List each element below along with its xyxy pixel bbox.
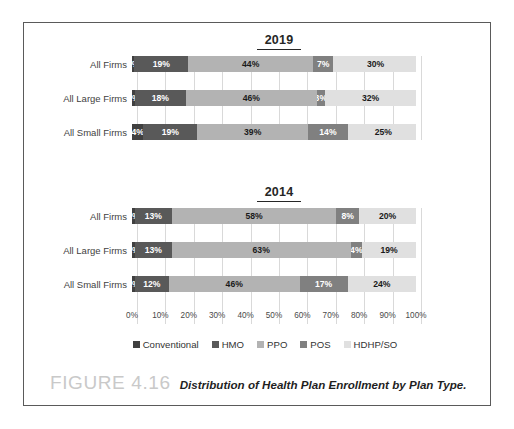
chart-panel-2019: 2019 All Firms 0%19%44%7%30% All Large F… [24, 33, 492, 183]
bar-segment-value: 58% [245, 211, 262, 221]
bar-segment-value: 17% [315, 279, 332, 289]
gridline [194, 208, 195, 324]
gridline [279, 208, 280, 324]
plot-area-2019: All Firms 0%19%44%7%30% All Large Firms … [24, 56, 492, 140]
bar-segment-value: 24% [373, 279, 390, 289]
bar-segment-hmo: 19% [134, 56, 188, 72]
bar-segment-value: 63% [253, 245, 270, 255]
bar-segment-value: 32% [362, 93, 379, 103]
bar-segment-value: 3% [317, 93, 326, 103]
legend-item-pos[interactable]: POS [300, 339, 330, 350]
row-label: All Firms [24, 211, 132, 222]
gridline [421, 208, 422, 324]
bar-segment-value: 13% [145, 211, 162, 221]
x-axis-tick: 20% [181, 311, 197, 320]
bar-segment-hdhp-so: 32% [325, 90, 416, 106]
stacked-bar: 4%19%39%14%25% [132, 124, 416, 140]
chart-panel-2014: 2014 All Firms 1%13%58%8%20% All Large F… [24, 185, 492, 333]
bar-segment-hmo: 18% [135, 90, 186, 106]
bar-segment-hmo: 19% [143, 124, 197, 140]
bar-segment-conventional: 4% [132, 124, 143, 140]
gridline [336, 208, 337, 324]
legend-swatch-icon [300, 341, 307, 348]
bar-segment-value: 25% [375, 127, 392, 137]
gridline [165, 208, 166, 324]
panel-title-2019: 2019 [257, 33, 301, 50]
bar-segment-hmo: 13% [135, 208, 172, 224]
bar-segment-value: 19% [162, 127, 179, 137]
bar-segment-hdhp-so: 20% [359, 208, 416, 224]
legend-item-conventional[interactable]: Conventional [133, 339, 199, 350]
bar-segment-hdhp-so: 19% [362, 242, 416, 258]
x-axis-tick: 70% [323, 311, 339, 320]
legend-label: POS [310, 339, 330, 350]
legend-label: Conventional [143, 339, 199, 350]
bar-segment-value: 4% [351, 245, 362, 255]
bar-row: All Large Firms 1%18%46%3%32% [24, 90, 492, 106]
bar-segment-ppo: 58% [172, 208, 337, 224]
bar-segment-pos: 3% [317, 90, 326, 106]
bar-segment-value: 19% [153, 59, 170, 69]
bar-segment-value: 19% [380, 245, 397, 255]
row-label: All Small Firms [24, 127, 132, 138]
legend-item-hmo[interactable]: HMO [212, 339, 244, 350]
bar-row: All Firms 1%13%58%8%20% [24, 208, 492, 224]
bar-segment-ppo: 39% [197, 124, 308, 140]
chart-legend: ConventionalHMOPPOPOSHDHP/SO [24, 339, 492, 350]
bar-segment-value: 13% [145, 245, 162, 255]
x-axis-tick: 60% [294, 311, 310, 320]
legend-swatch-icon [133, 341, 140, 348]
legend-label: PPO [267, 339, 287, 350]
bar-segment-value: 46% [243, 93, 260, 103]
row-label: All Large Firms [24, 245, 132, 256]
x-axis-tick: 90% [379, 311, 395, 320]
bar-segment-pos: 17% [300, 276, 348, 292]
row-label: All Firms [24, 59, 132, 70]
bar-segment-value: 8% [342, 211, 354, 221]
bar-row: All Small Firms 4%19%39%14%25% [24, 124, 492, 140]
gridline [307, 208, 308, 324]
stacked-bar: 0%19%44%7%30% [132, 56, 416, 72]
bar-segment-value: 30% [367, 59, 384, 69]
bar-segment-hdhp-so: 25% [348, 124, 416, 140]
bar-segment-value: 14% [319, 127, 336, 137]
legend-item-hdhp-so[interactable]: HDHP/SO [344, 339, 398, 350]
stacked-bar: 1%12%46%17%24% [132, 276, 416, 292]
bar-segment-pos: 8% [336, 208, 359, 224]
bar-segment-value: 4% [132, 127, 143, 137]
bar-segment-value: 46% [226, 279, 243, 289]
row-label: All Large Firms [24, 93, 132, 104]
bar-segment-pos: 4% [351, 242, 362, 258]
row-label: All Small Firms [24, 279, 132, 290]
bar-segment-value: 20% [379, 211, 396, 221]
bar-segment-value: 39% [244, 127, 261, 137]
x-axis-tick: 0% [126, 311, 138, 320]
bar-segment-hdhp-so: 30% [333, 56, 416, 72]
axis-spacer [24, 310, 132, 324]
bar-row: All Firms 0%19%44%7%30% [24, 56, 492, 72]
bar-segment-ppo: 46% [169, 276, 300, 292]
figure-frame: 2019 All Firms 0%19%44%7%30% All Large F… [23, 22, 491, 406]
stacked-bar: 1%18%46%3%32% [132, 90, 416, 106]
x-axis-tick: 50% [266, 311, 282, 320]
bar-segment-value: 44% [242, 59, 259, 69]
legend-label: HDHP/SO [354, 339, 398, 350]
stacked-bar: 1%13%58%8%20% [132, 208, 416, 224]
gridline [137, 208, 138, 324]
x-axis-tick-labels: 0%10%20%30%40%50%60%70%80%90%100% [132, 310, 416, 324]
gridline [251, 208, 252, 324]
bar-segment-pos: 7% [313, 56, 333, 72]
bar-segment-hdhp-so: 24% [348, 276, 416, 292]
x-axis-tick: 100% [406, 311, 427, 320]
bar-segment-value: 18% [152, 93, 169, 103]
figure-caption-text: Distribution of Health Plan Enrollment b… [180, 378, 467, 391]
bar-row: All Small Firms 1%12%46%17%24% [24, 276, 492, 292]
bar-segment-hmo: 12% [135, 276, 169, 292]
legend-item-ppo[interactable]: PPO [257, 339, 287, 350]
legend-swatch-icon [212, 341, 219, 348]
bar-segment-pos: 14% [308, 124, 348, 140]
gridline [364, 208, 365, 324]
panel-title-2014: 2014 [257, 185, 301, 202]
x-axis-tick: 40% [237, 311, 253, 320]
bar-segment-value: 12% [143, 279, 160, 289]
